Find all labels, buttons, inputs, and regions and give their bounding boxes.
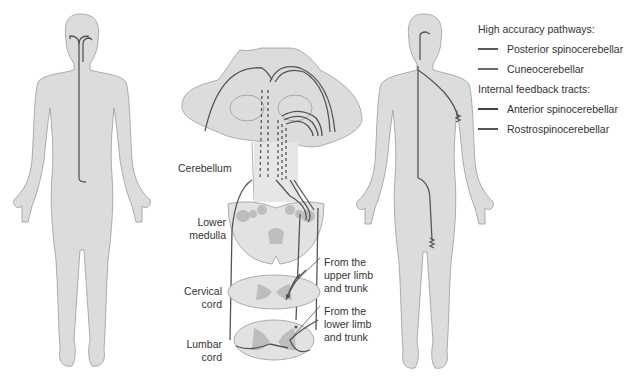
spinocerebellar-diagram: Cerebellum Lower medulla Cervical cord L… xyxy=(0,0,629,376)
label-lower-3: and trunk xyxy=(324,331,368,344)
legend-swatch xyxy=(478,128,498,130)
legend-label: Rostrospinocerebellar xyxy=(507,123,609,135)
legend-group-internal-feedback: Internal feedback tracts: xyxy=(478,82,623,96)
label-lower-1: From the xyxy=(324,305,366,318)
label-cerebellum: Cerebellum xyxy=(178,162,232,175)
label-lower-2: lower limb xyxy=(324,318,371,331)
lumbar-cord-section xyxy=(234,320,318,360)
label-cervical-1: Cervical xyxy=(170,285,222,298)
legend-label: Anterior spinocerebellar xyxy=(507,103,618,115)
label-upper-3: and trunk xyxy=(324,282,368,295)
label-lumbar-1: Lumbar xyxy=(170,338,222,351)
label-lumbar-2: cord xyxy=(170,351,222,364)
label-upper-1: From the xyxy=(324,256,366,269)
legend-label: Posterior spinocerebellar xyxy=(507,43,623,55)
cerebellum xyxy=(182,48,362,202)
legend-group-high-accuracy: High accuracy pathways: xyxy=(478,22,623,36)
legend-item-anterior-spinocerebellar: Anterior spinocerebellar xyxy=(478,102,623,116)
legend-label: Cuneocerebellar xyxy=(507,63,584,75)
label-cervical-2: cord xyxy=(170,298,222,311)
cervical-cord-section xyxy=(228,270,320,309)
legend-item-cuneocerebellar: Cuneocerebellar xyxy=(478,62,623,76)
legend-swatch xyxy=(478,68,498,70)
left-body-figure xyxy=(14,14,151,366)
label-lower-medulla-1: Lower xyxy=(186,216,226,229)
right-body-figure xyxy=(357,14,494,368)
legend: High accuracy pathways: Posterior spinoc… xyxy=(478,22,623,142)
label-lower-medulla-2: medulla xyxy=(176,229,226,242)
legend-item-rostrospinocerebellar: Rostrospinocerebellar xyxy=(478,122,623,136)
legend-item-posterior-spinocerebellar: Posterior spinocerebellar xyxy=(478,42,623,56)
lower-medulla-section xyxy=(228,180,324,340)
legend-swatch xyxy=(478,108,498,110)
legend-swatch xyxy=(478,48,498,50)
label-upper-2: upper limb xyxy=(324,269,373,282)
